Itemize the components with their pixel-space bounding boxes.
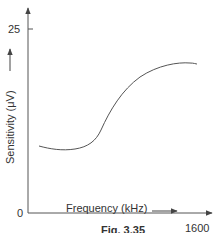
y-tick-label-0: 0: [17, 207, 23, 219]
y-tick-label-25: 25: [8, 23, 20, 35]
chart: 25 0 1600 Sensitivity (μV) Frequency (kH…: [0, 0, 216, 233]
x-tick-label-1600: 1600: [185, 222, 209, 233]
sensitivity-curve: [39, 63, 197, 150]
figure-caption: Fig. 3.35: [101, 224, 145, 233]
y-axis-label: Sensitivity (μV): [4, 90, 16, 164]
x-axis-label-block: Frequency (kHz): [66, 202, 147, 214]
